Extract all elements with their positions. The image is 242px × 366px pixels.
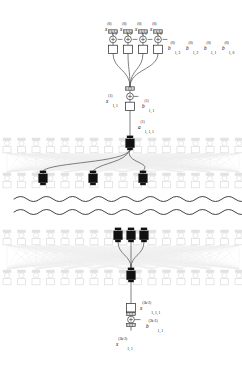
highlight-node-bandB-lower [126,268,135,283]
highlight-node-bandB-upper [113,228,122,243]
merge-node-layer1 [125,87,134,111]
edge-bandB-fan-in [131,242,144,267]
edge-bandA-fan-out [129,150,145,170]
connection-edges [43,39,167,319]
label-input-x-3: x(0)1, 0 [150,18,162,37]
edge-top-fan-in [130,53,143,86]
label-layer1-bias: b(1)1, 1 [142,95,154,114]
edge-top-fan-in [130,53,158,86]
edge-top-fan-in [113,53,130,86]
wavy-break-separators [14,197,242,215]
highlight-node-bandB-upper [126,228,135,243]
label-input-bias-0: b(0)1, 3 [168,37,180,56]
edge-top-fan-in [128,53,130,86]
highlight-node-bandB-upper [139,228,148,243]
highlight-node-bandA-lower [138,171,147,186]
active-nodes [38,30,162,331]
highlight-node-bandA-lower [88,171,97,186]
label-layer1-x: x(1)1, 1 [106,90,118,109]
label-output-bias: b(3k-3)1, 1 [146,315,163,334]
label-layer1-out: a(1)1, 1, 1 [138,116,154,135]
highlight-node-bandA [125,136,134,151]
figure-canvas: x(0)1, 3x(0)1, 2x(0)1, 1x(0)1, 0b(0)1, 3… [0,0,242,366]
edge-bandB-fan-in [118,242,131,267]
label-input-x-0: x(0)1, 3 [105,18,117,37]
output-node [126,304,135,331]
wavy-break-2 [14,210,242,215]
label-output-result: x(3k-3)1, 1 [116,333,133,352]
wavy-break-1 [14,197,242,202]
label-input-x-1: x(0)1, 2 [120,18,132,37]
label-input-bias-3: b(0)1, 0 [222,37,234,56]
label-input-x-2: x(0)1, 1 [135,18,147,37]
highlight-node-bandA-lower [38,171,47,186]
label-output-x: x(3k-2)1, 1, 1 [140,297,160,316]
label-input-bias-2: b(0)1, 1 [204,37,216,56]
label-input-bias-1: b(0)1, 2 [186,37,198,56]
